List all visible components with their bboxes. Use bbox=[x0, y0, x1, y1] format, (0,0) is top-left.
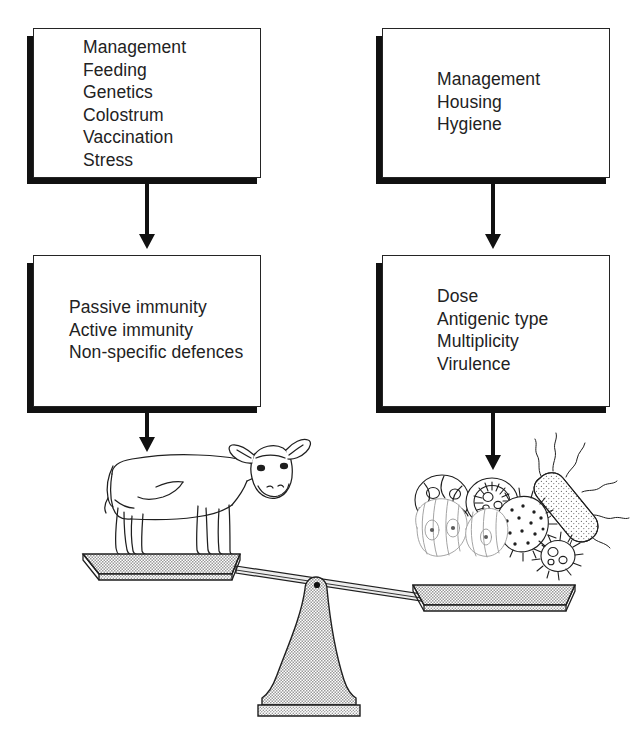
figure-canvas: Management Feeding Genetics Colostrum Va… bbox=[0, 0, 633, 744]
arrow-environment-shaft bbox=[491, 178, 495, 236]
arrow-host-head bbox=[139, 234, 155, 249]
arrow-environment-head bbox=[485, 234, 501, 249]
arrow-defences-head bbox=[139, 437, 155, 452]
arrow-pathogen-shaft bbox=[491, 409, 495, 458]
arrow-host-shaft bbox=[145, 178, 149, 236]
balance-pan-left bbox=[83, 554, 240, 580]
arrow-defences-shaft bbox=[145, 409, 149, 440]
host-factors-text: Management Feeding Genetics Colostrum Va… bbox=[83, 36, 186, 172]
balance-stand bbox=[258, 577, 360, 716]
balance-scale bbox=[83, 554, 575, 716]
pathogen-factors-text: Dose Antigenic type Multiplicity Virulen… bbox=[437, 285, 548, 375]
arrow-pathogen-head bbox=[485, 455, 501, 470]
calf-illustration bbox=[105, 439, 311, 554]
balance-pan-right bbox=[413, 585, 575, 611]
microorganisms-illustration bbox=[415, 433, 629, 580]
host-defences-text: Passive immunity Active immunity Non-spe… bbox=[69, 296, 243, 364]
environment-factors-text: Management Housing Hygiene bbox=[437, 68, 540, 136]
